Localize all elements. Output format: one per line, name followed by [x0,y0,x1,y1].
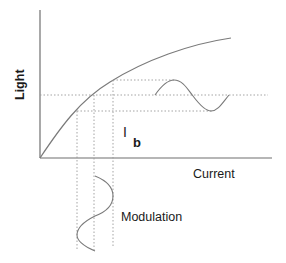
output-light-wave [155,80,229,111]
bias-current-subscript: b [133,136,141,149]
x-axis-label: Current [193,168,235,181]
current-modulation-wave [77,176,113,251]
modulation-label: Modulation [121,211,182,224]
y-axis-label: Light [14,69,27,100]
bias-current-label: I [123,125,127,139]
